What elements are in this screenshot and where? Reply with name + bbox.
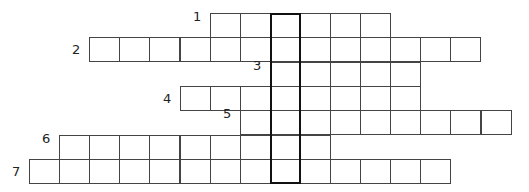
clue-number: 7 [12, 165, 20, 178]
crossword-cell[interactable] [390, 37, 421, 62]
crossword-cell[interactable] [270, 135, 301, 160]
crossword-cell[interactable] [210, 13, 241, 38]
crossword-cell[interactable] [180, 135, 211, 160]
crossword-cell[interactable] [270, 159, 301, 184]
crossword-cell[interactable] [270, 37, 301, 62]
clue-number: 5 [223, 107, 231, 120]
crossword-cell[interactable] [300, 86, 331, 111]
crossword-cell[interactable] [360, 110, 391, 135]
crossword-cell[interactable] [119, 135, 150, 160]
clue-number: 1 [193, 10, 201, 23]
crossword-cell[interactable] [240, 110, 271, 135]
crossword-cell[interactable] [300, 37, 331, 62]
crossword-cell[interactable] [240, 13, 271, 38]
crossword-cell[interactable] [180, 159, 211, 184]
clue-number: 3 [253, 59, 261, 72]
crossword-cell[interactable] [240, 159, 271, 184]
crossword-cell[interactable] [300, 110, 331, 135]
crossword-cell[interactable] [59, 159, 90, 184]
clue-number: 6 [42, 132, 50, 145]
crossword-cell[interactable] [420, 110, 451, 135]
crossword-cell[interactable] [300, 159, 331, 184]
crossword-cell[interactable] [390, 86, 421, 111]
crossword-cell[interactable] [210, 37, 241, 62]
crossword-cell[interactable] [180, 37, 211, 62]
crossword-cell[interactable] [300, 62, 331, 87]
crossword-cell[interactable] [390, 110, 421, 135]
crossword-cell[interactable] [180, 86, 211, 111]
crossword-cell[interactable] [119, 37, 150, 62]
crossword-cell[interactable] [360, 159, 391, 184]
crossword-cell[interactable] [360, 37, 391, 62]
crossword-cell[interactable] [210, 135, 241, 160]
crossword-cell[interactable] [420, 37, 451, 62]
crossword-cell[interactable] [300, 13, 331, 38]
crossword-cell[interactable] [390, 62, 421, 87]
crossword-cell[interactable] [59, 135, 90, 160]
crossword-cell[interactable] [360, 62, 391, 87]
crossword-cell[interactable] [29, 159, 60, 184]
crossword-cell[interactable] [420, 159, 451, 184]
crossword-cell[interactable] [270, 62, 301, 87]
crossword-cell[interactable] [149, 37, 180, 62]
crossword-cell[interactable] [450, 37, 481, 62]
crossword-cell[interactable] [149, 159, 180, 184]
crossword-cell[interactable] [330, 159, 361, 184]
crossword-cell[interactable] [390, 159, 421, 184]
crossword-cell[interactable] [330, 86, 361, 111]
crossword-cell[interactable] [360, 86, 391, 111]
crossword-cell[interactable] [330, 62, 361, 87]
crossword-cell[interactable] [210, 159, 241, 184]
crossword-cell[interactable] [481, 110, 512, 135]
clue-number: 2 [72, 43, 80, 56]
crossword-cell[interactable] [270, 86, 301, 111]
crossword-cell[interactable] [270, 13, 301, 38]
crossword-cell[interactable] [270, 110, 301, 135]
crossword-cell[interactable] [119, 159, 150, 184]
crossword-cell[interactable] [360, 13, 391, 38]
crossword-cell[interactable] [330, 13, 361, 38]
crossword-cell[interactable] [149, 135, 180, 160]
crossword-cell[interactable] [89, 135, 120, 160]
crossword-cell[interactable] [89, 37, 120, 62]
crossword-cell[interactable] [240, 86, 271, 111]
crossword-cell[interactable] [240, 135, 271, 160]
clue-number: 4 [163, 92, 171, 105]
crossword-cell[interactable] [450, 110, 481, 135]
crossword-cell[interactable] [330, 37, 361, 62]
crossword-cell[interactable] [300, 135, 331, 160]
crossword-cell[interactable] [89, 159, 120, 184]
crossword-cell[interactable] [330, 110, 361, 135]
